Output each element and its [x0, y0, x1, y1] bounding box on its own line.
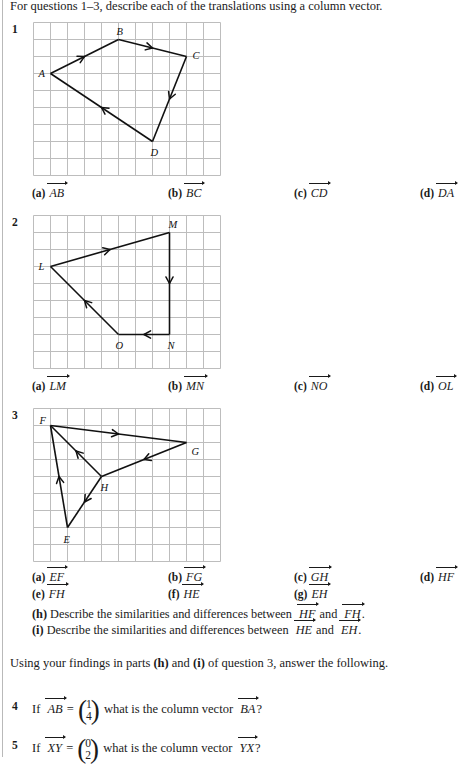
- answer-option-a[interactable]: (a)AB: [32, 186, 65, 201]
- vector-notation: NO: [310, 379, 329, 394]
- vector-notation: AB: [48, 186, 65, 201]
- column-vector: (14): [79, 698, 99, 722]
- answer-option-d[interactable]: (d)DA: [420, 186, 455, 201]
- answer-row-3-first: (a)EF(b)FG(c)GH(d)HF: [32, 570, 458, 588]
- answer-tag: (a): [32, 571, 45, 583]
- vector-notation: XY: [46, 740, 63, 756]
- vertex-label-g: G: [192, 446, 200, 457]
- vector-notation: HF: [437, 570, 455, 585]
- description-text: Describe the similarities and difference…: [44, 623, 292, 637]
- vector-notation: YX: [239, 740, 256, 756]
- question-number-5: 5: [12, 739, 18, 751]
- answer-option-d[interactable]: (d)OL: [420, 379, 454, 394]
- direction-arrowhead: [169, 92, 170, 99]
- vector-notation: EH: [340, 623, 358, 638]
- using-findings-note: Using your findings in parts (h) and (i)…: [10, 656, 456, 671]
- answer-tag: (a): [32, 187, 45, 199]
- answer-tag: (e): [32, 588, 45, 600]
- answer-tag: (b): [168, 187, 182, 199]
- using-note-part-h: (h): [153, 656, 168, 670]
- answer-option-b[interactable]: (b)MN: [168, 379, 205, 394]
- direction-arrowhead: [112, 434, 119, 437]
- answer-tag: (c): [294, 187, 307, 199]
- vertex-label-l: L: [38, 261, 45, 272]
- answer-option-e[interactable]: (e)FH: [32, 587, 66, 602]
- answer-option-b[interactable]: (b)BC: [168, 186, 202, 201]
- vector-notation: GH: [310, 570, 329, 585]
- vector-notation: BC: [185, 186, 202, 201]
- direction-arrowhead: [145, 48, 152, 50]
- diagram-3: FGHE: [33, 408, 221, 562]
- answer-option-a[interactable]: (a)LM: [32, 379, 67, 394]
- answer-tag: (g): [294, 588, 307, 600]
- equals-sign: =: [63, 741, 76, 755]
- vertex-label-f: F: [39, 415, 47, 426]
- vector-notation: AB: [46, 701, 63, 717]
- question-body-text: what is the column vector: [101, 702, 236, 716]
- using-note-after: of question 3, answer the following.: [205, 656, 388, 670]
- vector-notation: EH: [310, 587, 328, 602]
- answer-tag: (c): [294, 571, 307, 583]
- direction-arrowhead: [57, 477, 59, 484]
- vertex-label-o: O: [116, 340, 124, 351]
- question-number-1: 1: [12, 23, 18, 35]
- description-tag: (i): [32, 623, 44, 637]
- answer-option-f[interactable]: (f)HE: [168, 587, 201, 602]
- answer-option-d[interactable]: (d)HF: [420, 570, 455, 585]
- answer-option-c[interactable]: (c)CD: [294, 186, 328, 201]
- answer-row-1: (a)AB(b)BC(c)CD(d)DA: [32, 186, 458, 204]
- using-note-mid: and: [169, 656, 193, 670]
- question-5-text: If XY = (02) what is the column vector Y…: [32, 737, 261, 761]
- vector-notation: HE: [295, 623, 313, 638]
- vertex-label-b: B: [117, 26, 124, 37]
- vector-notation: HE: [183, 587, 201, 602]
- coordinate-grid: LMNO: [33, 215, 221, 369]
- diagram-2: LMNO: [33, 215, 221, 369]
- answer-option-a[interactable]: (a)EF: [32, 570, 65, 585]
- answer-option-g[interactable]: (g)EH: [294, 587, 328, 602]
- answer-option-c[interactable]: (c)GH: [294, 570, 329, 585]
- if-word: If: [32, 741, 43, 755]
- vector-notation: EF: [48, 570, 65, 585]
- using-note-part-i: (i): [193, 656, 205, 670]
- answer-option-b[interactable]: (b)FG: [168, 570, 203, 585]
- vector-notation: DA: [437, 186, 455, 201]
- vertex-label-a: A: [38, 68, 46, 79]
- answer-option-c[interactable]: (c)NO: [294, 379, 328, 394]
- description-tag: (h): [32, 607, 47, 621]
- coordinate-grid: ABCD: [33, 22, 221, 176]
- vertex-label-n: N: [167, 340, 176, 351]
- question-mark: ?: [256, 702, 262, 716]
- answer-tag: (d): [420, 187, 434, 199]
- answer-row-3-second: (e)FH(f)HE(g)EH: [32, 587, 458, 605]
- question-body-text: what is the column vector: [100, 741, 235, 755]
- answer-tag: (c): [294, 380, 307, 392]
- answer-tag: (d): [420, 571, 434, 583]
- vector-notation: MN: [185, 379, 205, 394]
- vector-notation: OL: [437, 379, 454, 394]
- question-number-3: 3: [12, 409, 18, 421]
- description-item-h: (h) Describe the similarities and differ…: [32, 607, 456, 622]
- vector-notation: CD: [310, 186, 329, 201]
- answer-tag: (d): [420, 380, 434, 392]
- answer-tag: (b): [168, 571, 182, 583]
- vector-notation: BA: [239, 701, 256, 717]
- vertex-label-h: H: [100, 482, 110, 493]
- description-joiner: and: [316, 607, 340, 621]
- coordinate-grid: FGHE: [33, 408, 221, 562]
- answer-tag: (a): [32, 380, 45, 392]
- question-mark: ?: [255, 741, 261, 755]
- equals-sign: =: [64, 702, 77, 716]
- description-text: Describe the similarities and difference…: [47, 607, 295, 621]
- using-note-before: Using your findings in parts: [10, 656, 153, 670]
- diagram-1: ABCD: [33, 22, 221, 176]
- direction-arrowhead: [144, 460, 151, 461]
- description-joiner: and: [313, 623, 337, 637]
- vertex-label-m: M: [168, 219, 179, 230]
- question-number-2: 2: [12, 216, 18, 228]
- question-number-4: 4: [12, 700, 18, 712]
- vertex-label-e: E: [63, 534, 71, 545]
- vector-notation: FH: [48, 587, 66, 602]
- answer-tag: (f): [168, 588, 180, 600]
